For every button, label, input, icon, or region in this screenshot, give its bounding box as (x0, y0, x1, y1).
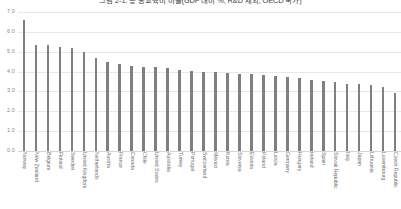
bar[interactable] (238, 74, 241, 151)
bar[interactable] (358, 84, 361, 151)
bar[interactable] (310, 80, 313, 151)
x-axis-tick-label: Slovenia (237, 152, 242, 172)
bar[interactable] (178, 70, 181, 151)
bar[interactable] (262, 75, 265, 151)
x-axis-tick-label: Latvia (273, 152, 278, 166)
bar[interactable] (59, 47, 62, 151)
x-axis-tick-label: Lithuania (368, 152, 373, 173)
x-label-slot: Ireland (305, 152, 317, 209)
x-label-slot: Czech Republic (389, 152, 401, 209)
x-axis-tick-label: Mexico (213, 152, 218, 168)
bar[interactable] (214, 72, 217, 151)
x-axis-tick-label: New Zealand (33, 152, 38, 182)
x-label-slot: Portugal (186, 152, 198, 209)
bar[interactable] (370, 85, 373, 151)
bar-series (18, 12, 401, 151)
bar[interactable] (346, 84, 349, 152)
bar-slot (42, 12, 54, 151)
bar[interactable] (190, 71, 193, 151)
bar[interactable] (166, 68, 169, 151)
bar[interactable] (118, 64, 121, 151)
bar-slot (78, 12, 90, 151)
bar-slot (18, 12, 30, 151)
bar[interactable] (130, 66, 133, 151)
x-axis-tick-label: Australia (165, 152, 170, 172)
y-axis-tick: 7.0 (7, 9, 15, 14)
bar[interactable] (154, 67, 157, 151)
y-axis-tick-labels: 7.06.05.04.03.02.01.00.0 (0, 12, 18, 151)
x-axis-tick-label: Italy (345, 152, 350, 161)
bar-slot (269, 12, 281, 151)
y-axis-tick: 1.0 (7, 128, 15, 133)
bar[interactable] (83, 52, 86, 151)
bar-slot (233, 12, 245, 151)
x-label-slot: Lithuania (365, 152, 377, 209)
x-axis-tick-label: Belgium (45, 152, 50, 170)
x-label-slot: Poland (257, 152, 269, 209)
bar[interactable] (322, 81, 325, 151)
bar[interactable] (142, 67, 145, 151)
x-axis-tick-label: Austria (105, 152, 110, 168)
bar[interactable] (71, 48, 74, 151)
x-axis-tick-label: Netherlands (93, 152, 98, 179)
y-axis-tick: 4.0 (7, 69, 15, 74)
bar-slot (329, 12, 341, 151)
bar-slot (293, 12, 305, 151)
bar[interactable] (226, 73, 229, 151)
bar[interactable] (334, 82, 337, 152)
bar-slot (353, 12, 365, 151)
bar-slot (66, 12, 78, 151)
bar-slot (102, 12, 114, 151)
x-axis-tick-label: Sweden (69, 152, 74, 170)
chart-title: 그림 2-1. 총 공교육비 비율(GDP 대비 %, R&D 제외, OECD… (0, 0, 401, 7)
x-axis-tick-label: Japan (357, 152, 362, 166)
bar[interactable] (23, 20, 26, 151)
bar-slot (90, 12, 102, 151)
x-axis-tick-label: Portugal (189, 152, 194, 171)
y-axis-tick: 6.0 (7, 29, 15, 34)
bar-slot (245, 12, 257, 151)
x-label-slot: Canada (126, 152, 138, 209)
x-label-slot: Spain (317, 152, 329, 209)
x-label-slot: Netherlands (90, 152, 102, 209)
y-axis-tick: 3.0 (7, 89, 15, 94)
x-label-slot: Turkey (174, 152, 186, 209)
x-label-slot: United Kingdom (78, 152, 90, 209)
bar-slot (138, 12, 150, 151)
x-label-slot: Belgium (42, 152, 54, 209)
bar[interactable] (394, 93, 397, 151)
x-axis-tick-label: Estonia (249, 152, 254, 169)
bar-slot (162, 12, 174, 151)
x-axis-tick-label: Turkey (177, 152, 182, 167)
bar[interactable] (382, 87, 385, 151)
bar[interactable] (47, 45, 50, 151)
bar[interactable] (35, 45, 38, 151)
y-axis-tick: 2.0 (7, 109, 15, 114)
x-label-slot: Hungary (293, 152, 305, 209)
x-label-slot: United States (150, 152, 162, 209)
x-label-slot: Latvia (269, 152, 281, 209)
bar[interactable] (286, 77, 289, 151)
bar[interactable] (250, 74, 253, 151)
bar-slot (365, 12, 377, 151)
bar-slot (317, 12, 329, 151)
bar-slot (389, 12, 401, 151)
x-label-slot: Norway (18, 152, 30, 209)
x-axis-tick-label: Ireland (309, 152, 314, 168)
x-axis-tick-label: Norway (21, 152, 26, 169)
bar-slot (377, 12, 389, 151)
bar-slot (281, 12, 293, 151)
bar-slot (305, 12, 317, 151)
x-axis-tick-label: Poland (261, 152, 266, 168)
bar[interactable] (106, 62, 109, 151)
plot-area (18, 12, 401, 151)
bar[interactable] (202, 72, 205, 151)
x-axis-category-labels: NorwayNew ZealandBelgiumFinlandSwedenUni… (18, 152, 401, 209)
x-label-slot: Mexico (210, 152, 222, 209)
y-axis-tick: 0.0 (7, 148, 15, 153)
bar[interactable] (95, 58, 98, 151)
bar[interactable] (274, 76, 277, 151)
x-axis-tick-label: Czech Republic (392, 152, 397, 188)
bar[interactable] (298, 78, 301, 151)
bar-slot (126, 12, 138, 151)
